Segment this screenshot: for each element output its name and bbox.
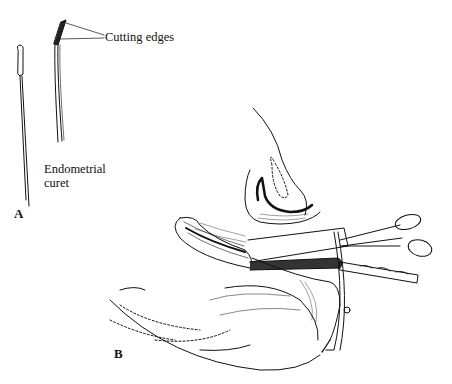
curet-label-line1: Endometrial <box>44 162 106 176</box>
cutting-edges-label: Cutting edges <box>105 30 174 44</box>
curet-instrument-right <box>54 20 104 142</box>
curet-label-line2: curet <box>44 176 69 190</box>
panel-label-a: A <box>14 206 23 222</box>
curet-instrument-left <box>17 45 29 206</box>
illustration <box>0 0 452 384</box>
panel-label-b: B <box>114 346 123 362</box>
tenaculum-forceps <box>340 212 434 283</box>
